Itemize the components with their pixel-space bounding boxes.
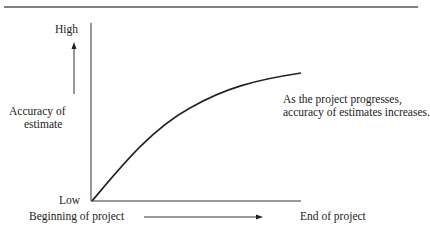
x-end-label: End of project: [300, 210, 366, 223]
y-axis-title-line1: Accuracy of: [9, 105, 66, 118]
y-high-label: High: [55, 23, 78, 36]
up-arrow-icon: [72, 42, 77, 49]
accuracy-curve: [92, 73, 301, 201]
y-low-label: Low: [59, 194, 80, 207]
right-arrow-icon: [256, 215, 263, 220]
annotation-line2: accuracy of estimates increases.: [283, 106, 430, 119]
x-start-label: Beginning of project: [29, 210, 124, 223]
annotation-line1: As the project progresses,: [283, 93, 402, 106]
y-axis-title-line2: estimate: [24, 118, 62, 131]
